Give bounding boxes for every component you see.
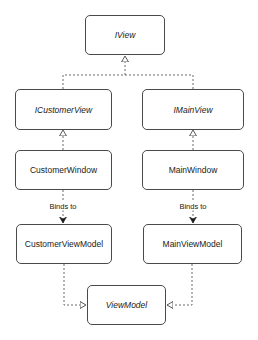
edge-customerviewmodel-viewmodel — [64, 264, 86, 305]
edge-label-binds-to-right: Binds to — [178, 202, 207, 211]
edge-label-binds-to-left: Binds to — [48, 202, 77, 211]
node-customerwindow[interactable]: CustomerWindow — [15, 150, 112, 190]
edge-mainviewmodel-viewmodel — [167, 264, 192, 305]
node-iview-label: IView — [115, 30, 136, 40]
node-customerwindow-label: CustomerWindow — [30, 165, 97, 175]
node-icustomerview[interactable]: ICustomerView — [15, 89, 112, 130]
node-mainviewmodel-label: MainViewModel — [163, 239, 223, 249]
node-customerviewmodel-label: CustomerViewModel — [25, 239, 103, 249]
node-mainviewmodel[interactable]: MainViewModel — [143, 224, 242, 264]
node-mainwindow-label: MainWindow — [169, 165, 218, 175]
node-mainwindow[interactable]: MainWindow — [142, 150, 244, 190]
node-imainview[interactable]: IMainView — [142, 89, 244, 130]
node-customerviewmodel[interactable]: CustomerViewModel — [16, 224, 112, 264]
edge-imainview-iview — [125, 75, 193, 89]
diagram-canvas: IView ICustomerView IMainView CustomerWi… — [0, 0, 258, 340]
node-viewmodel-label: ViewModel — [106, 300, 147, 310]
node-iview[interactable]: IView — [85, 15, 165, 55]
node-viewmodel[interactable]: ViewModel — [87, 285, 166, 325]
node-imainview-label: IMainView — [173, 105, 212, 115]
edge-icustomerview-iview — [63, 75, 125, 89]
node-icustomerview-label: ICustomerView — [35, 105, 92, 115]
